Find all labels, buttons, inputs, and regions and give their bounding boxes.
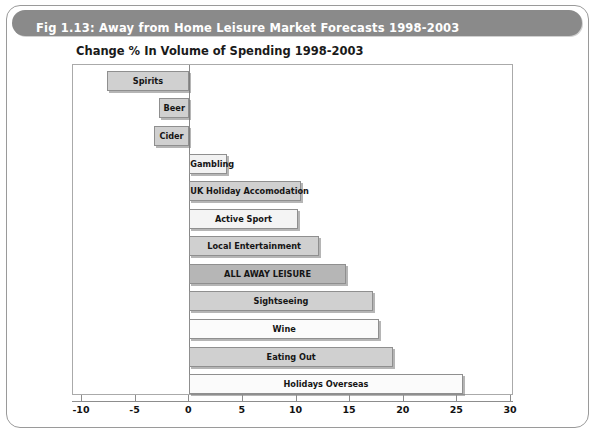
bar-row: Holidays Overseas [73, 374, 512, 394]
bar-row: Active Sport [73, 209, 512, 229]
bar-gambling[interactable]: Gambling [189, 154, 227, 174]
x-tick-label: -5 [129, 404, 140, 415]
bar-holidays-overseas[interactable]: Holidays Overseas [189, 374, 462, 394]
figure-title-banner: Fig 1.13: Away from Home Leisure Market … [12, 10, 582, 36]
bar-label: UK Holiday Accomodation [190, 186, 300, 196]
chart-plot-area: SpiritsBeerCiderGamblingUK Holiday Accom… [72, 64, 513, 395]
x-tick-label: 20 [396, 404, 409, 415]
x-tick [403, 395, 404, 402]
bar-label: Beer [160, 103, 188, 113]
x-tick-label: 0 [185, 404, 192, 415]
x-axis-line [72, 401, 513, 402]
bar-row: Wine [73, 319, 512, 339]
x-tick [296, 395, 297, 402]
bar-row: UK Holiday Accomodation [73, 181, 512, 201]
x-tick-label: 5 [239, 404, 246, 415]
x-tick [81, 395, 82, 402]
bar-label: Sightseeing [190, 296, 371, 306]
figure-page: Fig 1.13: Away from Home Leisure Market … [0, 0, 595, 433]
bar-beer[interactable]: Beer [159, 98, 189, 118]
bar-row: Eating Out [73, 347, 512, 367]
x-tick-label: 15 [343, 404, 356, 415]
x-tick [242, 395, 243, 402]
figure-title: Fig 1.13: Away from Home Leisure Market … [36, 21, 460, 35]
x-tick-label: 30 [503, 404, 516, 415]
bar-row: Spirits [73, 71, 512, 91]
bar-cider[interactable]: Cider [154, 126, 189, 146]
bar-spirits[interactable]: Spirits [107, 71, 190, 91]
bar-wine[interactable]: Wine [189, 319, 379, 339]
x-tick [135, 395, 136, 402]
bar-label: Local Entertainment [190, 241, 318, 251]
x-tick [349, 395, 350, 402]
bar-row: Beer [73, 98, 512, 118]
bar-row: Cider [73, 126, 512, 146]
x-tick [188, 395, 189, 402]
bar-row: Local Entertainment [73, 236, 512, 256]
x-tick-label: 25 [450, 404, 463, 415]
bar-label: Wine [190, 324, 378, 334]
x-tick-label: -10 [72, 404, 89, 415]
bar-row: ALL AWAY LEISURE [73, 264, 512, 284]
bar-label: Active Sport [190, 214, 296, 224]
bar-label: Holidays Overseas [190, 379, 461, 389]
bar-row: Gambling [73, 154, 512, 174]
bar-sightseeing[interactable]: Sightseeing [189, 291, 372, 311]
bar-label: Eating Out [190, 352, 392, 362]
bar-label: Gambling [190, 159, 226, 169]
bar-local-entertainment[interactable]: Local Entertainment [189, 236, 319, 256]
bar-active-sport[interactable]: Active Sport [189, 209, 297, 229]
bar-row: Sightseeing [73, 291, 512, 311]
bar-all-away-leisure[interactable]: ALL AWAY LEISURE [189, 264, 346, 284]
x-tick-label: 10 [289, 404, 302, 415]
bar-eating-out[interactable]: Eating Out [189, 347, 393, 367]
bar-label: Spirits [108, 76, 189, 86]
bar-label: ALL AWAY LEISURE [190, 269, 345, 279]
x-tick [456, 395, 457, 402]
x-tick [510, 395, 511, 402]
bar-uk-holiday-accomodation[interactable]: UK Holiday Accomodation [189, 181, 301, 201]
bar-label: Cider [155, 131, 188, 141]
chart-subtitle: Change % In Volume of Spending 1998-2003 [76, 44, 363, 58]
